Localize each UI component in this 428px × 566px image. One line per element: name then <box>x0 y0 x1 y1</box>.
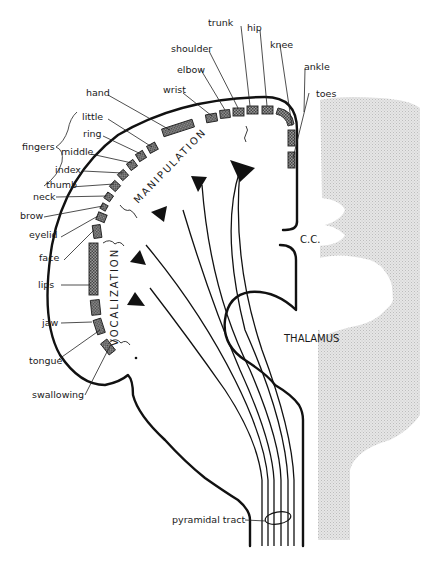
label-toes: toes <box>316 88 336 99</box>
label-eyelid: eyelid <box>29 229 58 240</box>
arrowhead <box>151 206 167 222</box>
boundary-squiggle <box>120 205 137 218</box>
segment-index <box>117 169 128 180</box>
region-vocalization: VOCALIZATION <box>109 248 120 346</box>
segment-shoulder <box>233 108 244 116</box>
label-hand: hand <box>86 87 110 98</box>
label-shoulder: shoulder <box>171 43 212 54</box>
label-pyramidal-tract: pyramidal tract <box>172 514 245 525</box>
label-little: little <box>82 111 103 122</box>
arrowhead <box>191 176 207 192</box>
boundary-squiggle <box>245 126 248 142</box>
label-brow: brow <box>20 210 44 221</box>
boundary-squiggle <box>103 241 124 246</box>
label-neck: neck <box>33 191 56 202</box>
segment-brow <box>100 203 108 211</box>
label-face: face <box>39 252 59 263</box>
segment-jaw <box>90 300 101 316</box>
segment-eyelid <box>96 212 107 223</box>
label-corpus-callosum: C.C. <box>300 234 320 245</box>
motor-homunculus-diagram: toes ankle knee hip trunk shoulder elbow… <box>0 0 428 566</box>
label-lips: lips <box>38 279 54 290</box>
label-trunk: trunk <box>208 17 234 28</box>
label-knee: knee <box>270 39 293 50</box>
label-thalamus: THALAMUS <box>283 333 339 344</box>
label-elbow: elbow <box>177 64 205 75</box>
label-jaw: jaw <box>41 317 58 328</box>
segment-little <box>147 142 159 153</box>
label-fingers: fingers <box>22 141 55 152</box>
arrowhead <box>130 250 146 265</box>
label-ankle: ankle <box>304 61 330 72</box>
label-ring: ring <box>83 128 102 139</box>
segment-trunk <box>247 106 258 114</box>
label-swallowing: swallowing <box>32 389 84 400</box>
label-tongue: tongue <box>29 355 63 366</box>
segment-wrist <box>205 113 217 123</box>
arrowhead <box>127 292 145 306</box>
segment-face <box>92 225 102 239</box>
corpus-callosum-upper <box>283 222 297 230</box>
segment-tongue <box>93 318 105 335</box>
leader-lines <box>44 26 309 395</box>
label-hip: hip <box>247 22 262 33</box>
segment-ankle <box>288 130 295 146</box>
segment-neck <box>104 192 114 202</box>
segment-lips <box>89 243 98 295</box>
region-manipulation: MANIPULATION <box>132 126 209 205</box>
segment-hip <box>262 106 273 114</box>
arrowhead <box>230 160 255 182</box>
segment-thumb <box>109 180 120 191</box>
segment-elbow <box>220 109 231 118</box>
label-wrist: wrist <box>163 84 186 95</box>
pyramidal-tract-leader <box>245 520 266 521</box>
segment-middle <box>126 159 137 170</box>
label-middle: middle <box>61 146 94 157</box>
end-dot <box>135 357 138 360</box>
